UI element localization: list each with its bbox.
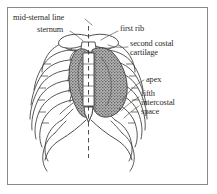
label-second-costal-cartilage-line1: second costal [130, 39, 174, 48]
label-mid-sternal-line: mid-sternal line [13, 13, 64, 22]
heart-apex [119, 108, 121, 110]
label-fifth-intercostal-space-line1: fifth [141, 89, 155, 98]
figure-root: mid-sternal line sternum first rib secon… [0, 0, 217, 194]
label-sternum: sternum [37, 25, 63, 34]
anatomy-diagram [0, 0, 217, 194]
label-fifth-intercostal-space-line3: space [141, 107, 159, 116]
label-first-rib: first rib [120, 24, 144, 33]
label-second-costal-cartilage-line2: cartilage [130, 48, 158, 57]
label-fifth-intercostal-space-line2: intercostal [141, 98, 175, 107]
label-apex: apex [146, 75, 161, 84]
sternum-body-overlay [83, 53, 94, 122]
heart-outline [69, 48, 127, 118]
rib-segment-marks-left [38, 64, 51, 123]
